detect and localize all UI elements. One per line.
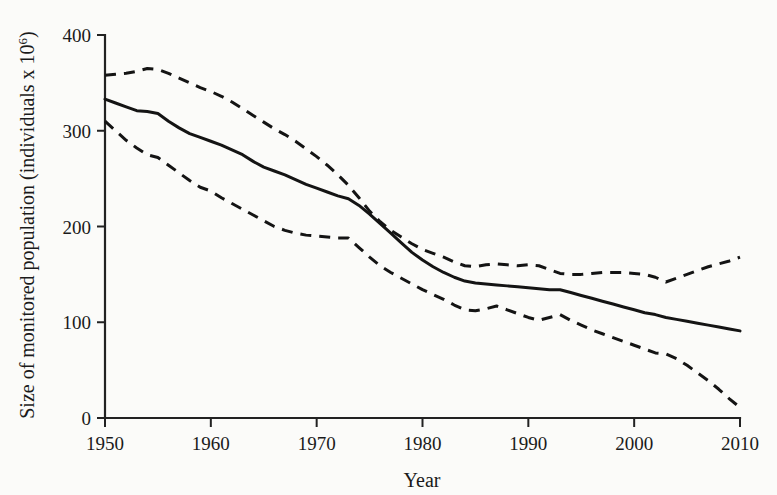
x-tick-label-2000: 2000 [615,433,653,454]
axis-ticks-group [97,35,740,427]
y-tick-label-300: 300 [63,121,92,142]
x-tick-labels-group: 1950196019701980199020002010 [86,433,759,454]
figure-container: 0100200300400 19501960197019801990200020… [0,0,777,495]
y-tick-labels-group: 0100200300400 [63,25,92,429]
x-tick-label-1950: 1950 [86,433,124,454]
chart-canvas: 0100200300400 19501960197019801990200020… [0,0,777,495]
x-tick-label-1960: 1960 [192,433,230,454]
y-tick-label-0: 0 [82,408,92,429]
x-tick-label-1990: 1990 [509,433,547,454]
series-line-upper-confidence-limit [105,69,740,283]
series-line-mean-monitored-population-size [105,99,740,331]
y-tick-label-400: 400 [63,25,92,46]
y-tick-label-100: 100 [63,312,92,333]
x-tick-label-1970: 1970 [298,433,336,454]
x-tick-label-1980: 1980 [404,433,442,454]
axis-lines [105,35,740,418]
y-tick-label-200: 200 [63,217,92,238]
series-line-lower-confidence-limit [105,121,740,407]
x-tick-label-2010: 2010 [721,433,759,454]
data-series-group [105,69,740,408]
